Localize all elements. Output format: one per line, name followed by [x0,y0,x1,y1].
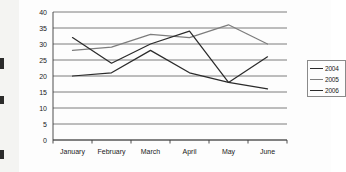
line-chart: 0510152025303540JanuaryFebruaryMarchApri… [19,0,331,172]
y-axis-tick-label: 30 [39,41,47,48]
legend-item-2004: 2004 [310,63,343,74]
series-line-2006 [73,31,268,82]
x-axis-tick-label: June [260,148,275,155]
legend-label: 2006 [325,87,339,95]
legend-swatch-icon [310,68,323,69]
x-axis-tick-label: April [182,148,196,156]
x-axis-tick-label: May [222,148,236,156]
legend-item-2005: 2005 [310,74,343,85]
y-axis-tick-label: 20 [39,73,47,80]
legend-swatch-icon [310,79,323,80]
x-axis-tick-label: January [60,148,85,156]
y-axis-tick-label: 10 [39,105,47,112]
x-axis-tick-label: March [141,148,161,155]
page-edge-strip [0,0,20,172]
y-axis-tick-label: 40 [39,9,47,16]
edge-mark [0,58,4,69]
legend-label: 2005 [325,76,339,84]
y-axis-tick-label: 35 [39,25,47,32]
legend-swatch-icon [310,90,323,91]
x-axis-tick-label: February [97,148,126,156]
chart-plot-area: 0510152025303540JanuaryFebruaryMarchApri… [19,0,331,172]
legend-item-2006: 2006 [310,85,343,96]
y-axis-tick-label: 0 [43,137,47,144]
edge-mark [0,96,4,104]
y-axis-tick-label: 25 [39,57,47,64]
y-axis-tick-label: 15 [39,89,47,96]
legend-label: 2004 [325,65,339,73]
chart-legend: 2004 2005 2006 [307,60,346,97]
y-axis-tick-label: 5 [43,121,47,128]
edge-mark [0,150,4,159]
